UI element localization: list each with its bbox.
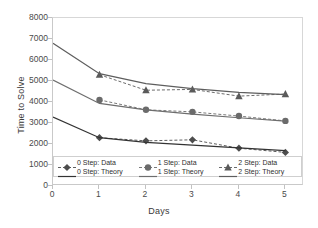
x-tick-label: 4 — [223, 189, 253, 199]
y-tick-mark — [48, 122, 52, 123]
x-tick-mark — [145, 185, 146, 189]
x-tick-mark — [238, 185, 239, 189]
x-tick-label: 5 — [269, 189, 299, 199]
data-point-marker — [189, 136, 196, 143]
y-tick-label: 4000 — [2, 96, 48, 106]
x-tick-mark — [191, 185, 192, 189]
legend-item[interactable]: 0 Step: Theory — [57, 167, 138, 176]
y-tick-mark — [48, 17, 52, 18]
data-point-marker — [142, 137, 149, 144]
legend-item[interactable]: 2 Step: Theory — [218, 167, 299, 176]
y-tick-label: 2000 — [2, 138, 48, 148]
legend-item[interactable]: 1 Step: Theory — [138, 167, 219, 176]
series-0-step-theory — [53, 117, 285, 150]
x-tick-mark — [284, 185, 285, 189]
y-tick-label: 1000 — [2, 159, 48, 169]
legend-label: 0 Step: Data — [77, 158, 116, 167]
y-tick-label: 8000 — [2, 12, 48, 22]
legend-label: 2 Step: Theory — [238, 167, 284, 176]
x-tick-mark — [52, 185, 53, 189]
legend-symbol-line — [218, 167, 238, 176]
y-tick-label: 6000 — [2, 54, 48, 64]
series-line — [53, 117, 285, 150]
series-2-step-theory — [53, 43, 285, 94]
y-tick-label: 3000 — [2, 117, 48, 127]
legend-symbol-circle — [138, 158, 158, 167]
y-tick-mark — [48, 59, 52, 60]
y-tick-mark — [48, 101, 52, 102]
legend-symbol-triangle — [218, 158, 238, 167]
legend-row-data: 0 Step: Data1 Step: Data2 Step: Data — [57, 158, 299, 167]
legend-row-theory: 0 Step: Theory1 Step: Theory2 Step: Theo… — [57, 167, 299, 176]
legend-label: 0 Step: Theory — [77, 167, 123, 176]
y-tick-mark — [48, 143, 52, 144]
legend-label: 1 Step: Theory — [158, 167, 204, 176]
legend-symbol-line — [138, 167, 158, 176]
series-2-step-data — [96, 71, 289, 99]
series-line — [53, 43, 285, 94]
y-tick-label: 7000 — [2, 33, 48, 43]
y-tick-mark — [48, 38, 52, 39]
x-tick-mark — [98, 185, 99, 189]
legend-symbol-line — [57, 167, 77, 176]
legend-label: 1 Step: Data — [158, 158, 197, 167]
chart-legend: 0 Step: Data1 Step: Data2 Step: Data 0 S… — [53, 156, 302, 177]
data-point-marker — [282, 90, 289, 97]
series-1-step-data — [96, 97, 288, 124]
legend-label: 2 Step: Data — [238, 158, 277, 167]
legend-item[interactable]: 0 Step: Data — [57, 158, 138, 167]
legend-symbol-diamond — [57, 158, 77, 167]
x-tick-label: 2 — [130, 189, 160, 199]
legend-item[interactable]: 1 Step: Data — [138, 158, 219, 167]
y-tick-mark — [48, 80, 52, 81]
legend-item[interactable]: 2 Step: Data — [218, 158, 299, 167]
x-tick-label: 0 — [37, 189, 67, 199]
y-tick-mark — [48, 164, 52, 165]
y-tick-label: 5000 — [2, 75, 48, 85]
x-tick-label: 3 — [176, 189, 206, 199]
chart-figure: Time to Solve Days 010002000300040005000… — [0, 0, 318, 228]
x-tick-label: 1 — [83, 189, 113, 199]
